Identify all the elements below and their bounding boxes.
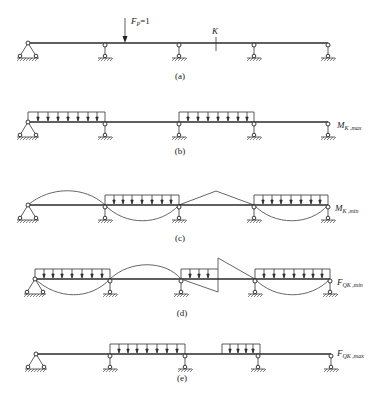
panel-b: MK ,max (b) (17, 112, 362, 156)
influence-line (35, 258, 330, 295)
caption-e: (e) (177, 373, 187, 383)
roller-support (174, 279, 189, 297)
udl-load (35, 269, 110, 279)
result-label: FQK ,min (336, 277, 363, 288)
udl-load (105, 195, 179, 205)
panel-d: FQK ,min (d) (24, 258, 363, 318)
udl-load (254, 195, 328, 205)
roller-support (178, 354, 193, 372)
pin-support (17, 203, 39, 223)
udl-load (181, 269, 218, 279)
roller-support (172, 43, 187, 61)
udl-load (255, 269, 330, 279)
pin-support (17, 41, 39, 61)
load-label: FP=1 (130, 16, 150, 27)
roller-support (323, 279, 338, 297)
panel-c: MK ,min (c) (17, 191, 359, 243)
pin-support (24, 277, 46, 297)
caption-a: (a) (175, 71, 185, 81)
roller-support (172, 205, 187, 223)
pin-support (17, 120, 39, 140)
caption-d: (d) (177, 308, 188, 318)
roller-support (321, 43, 336, 61)
roller-support (172, 122, 187, 140)
pin-support (25, 352, 47, 372)
udl-load (179, 112, 254, 122)
roller-support (98, 205, 113, 223)
udl-load (28, 112, 105, 122)
roller-support (321, 205, 336, 223)
roller-support (247, 43, 262, 61)
caption-b: (b) (175, 146, 186, 156)
continuous-beam-influence-diagram: FP=1 K (a) (0, 0, 381, 400)
roller-support (98, 43, 113, 61)
roller-support (251, 354, 266, 372)
udl-load (222, 344, 260, 354)
roller-support (103, 279, 118, 297)
unit-load-arrow-icon (123, 18, 128, 43)
roller-support (247, 122, 262, 140)
roller-support (98, 122, 113, 140)
udl-load (110, 344, 185, 354)
roller-support (247, 205, 262, 223)
result-label: FQK ,max (336, 348, 364, 359)
caption-c: (c) (175, 233, 185, 243)
panel-a: FP=1 K (a) (17, 16, 336, 81)
roller-support (248, 279, 263, 297)
result-label: MK ,min (334, 203, 359, 214)
result-label: MK ,max (336, 120, 362, 131)
roller-support (321, 122, 336, 140)
panel-e: FQK ,max (e) (25, 344, 364, 383)
section-k-label: K (211, 26, 219, 36)
roller-support (103, 354, 118, 372)
